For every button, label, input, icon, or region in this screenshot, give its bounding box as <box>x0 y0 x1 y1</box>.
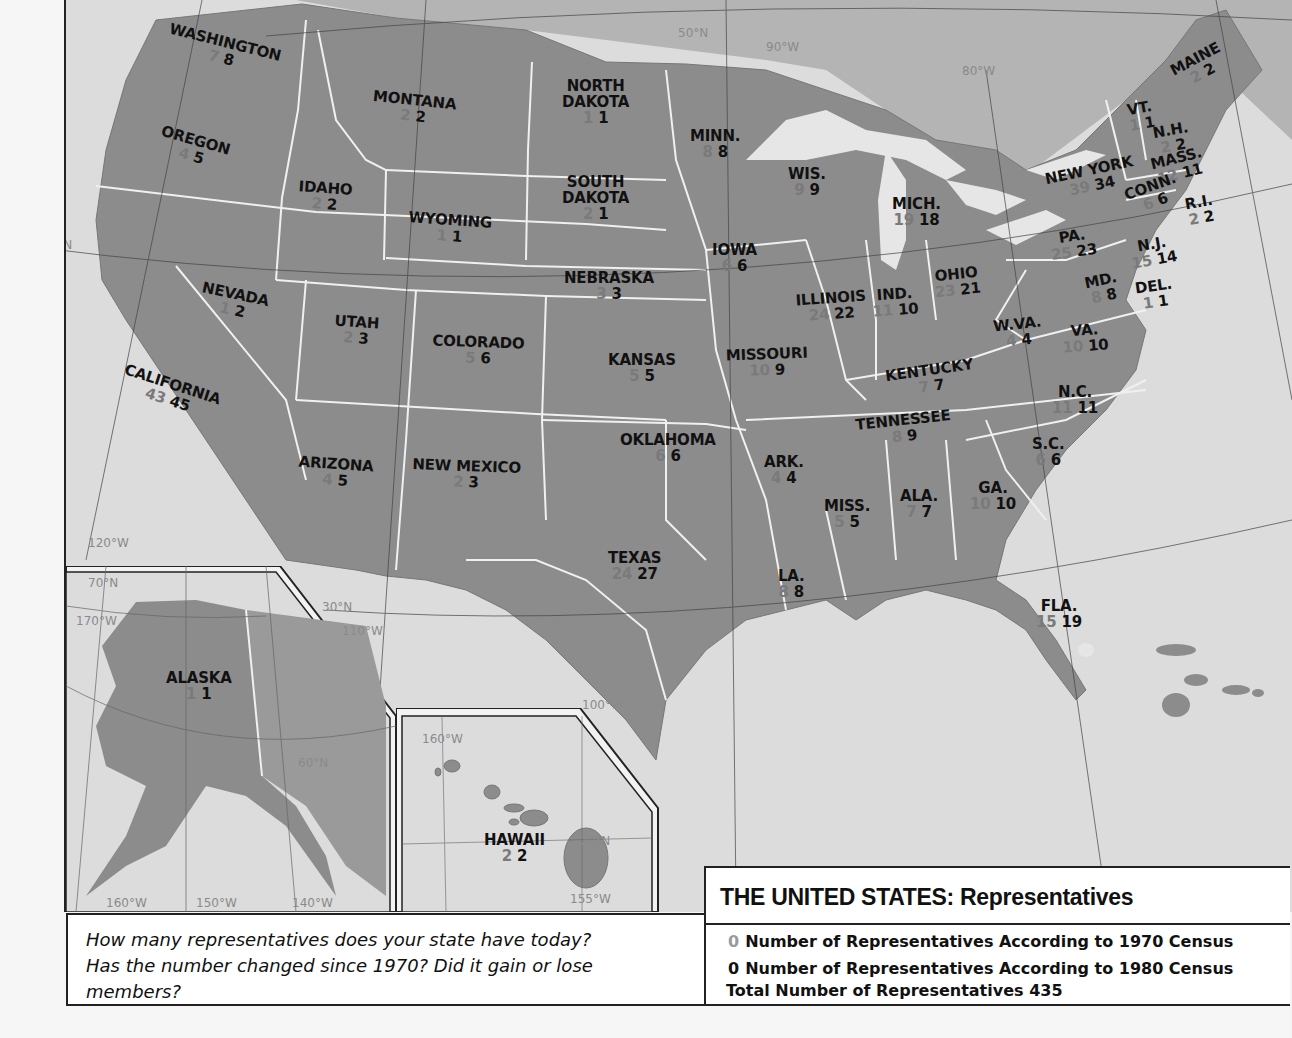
state-name: N.C. <box>1052 384 1098 400</box>
state-name: COLORADO <box>432 332 525 351</box>
state-label: MINN.88 <box>690 128 740 160</box>
state-label: MISSOURI109 <box>725 345 808 380</box>
state-representatives: 2321 <box>934 280 981 301</box>
state-label: GA.1010 <box>970 480 1016 512</box>
state-label: IDAHO22 <box>297 178 353 214</box>
state-label: MD.88 <box>1083 269 1121 307</box>
state-name: TEXAS <box>608 550 661 566</box>
representatives-1970: 10 <box>1062 337 1084 356</box>
state-label: ARIZONA45 <box>297 453 374 490</box>
state-label: OHIO2321 <box>932 264 981 301</box>
legend-swatch-1970: 0 <box>728 932 739 951</box>
state-representatives: 11 <box>562 110 629 126</box>
state-label: MICH.1918 <box>892 196 941 228</box>
graticule-label: 70°N <box>88 576 118 590</box>
graticule-label: 30°N <box>322 600 352 614</box>
state-label: FLA.1519 <box>1036 598 1082 630</box>
state-label: WYOMING11 <box>407 209 493 247</box>
representatives-1980: 3 <box>611 285 621 303</box>
representatives-1970: 7 <box>918 377 931 396</box>
representatives-1980: 4 <box>1020 330 1032 349</box>
state-label: WIS.99 <box>788 166 826 198</box>
graticule-label: 50°N <box>678 26 708 40</box>
representatives-1970: 1 <box>436 226 447 245</box>
state-name: WIS. <box>788 166 826 182</box>
representatives-1980: 7 <box>933 375 946 394</box>
state-label: DEL.11 <box>1134 276 1175 313</box>
representatives-1970: 23 <box>934 281 956 301</box>
representatives-1970: 1 <box>1142 293 1155 312</box>
representatives-1980: 9 <box>775 360 786 378</box>
state-label: LA.88 <box>778 568 805 600</box>
representatives-1980: 8 <box>1104 284 1118 304</box>
state-label: W.VA.44 <box>992 314 1043 351</box>
representatives-1980: 2 <box>415 107 427 126</box>
map-legend: THE UNITED STATES: Representatives 0Numb… <box>704 866 1290 1006</box>
state-representatives: 88 <box>690 144 740 160</box>
graticule-label: 90°W <box>766 40 799 54</box>
state-representatives: 1519 <box>1036 614 1082 630</box>
state-label: UTAH23 <box>333 312 380 347</box>
state-label: S.C.66 <box>1032 436 1064 468</box>
state-name: DAKOTA <box>562 190 629 206</box>
graticule-label: 80°W <box>962 64 995 78</box>
representatives-1970: 8 <box>702 143 712 161</box>
state-name: MINN. <box>690 128 740 144</box>
representatives-1970: 5 <box>834 513 844 531</box>
state-representatives: 66 <box>620 448 716 464</box>
representatives-1980: 6 <box>480 349 491 367</box>
state-label: NEBRASKA33 <box>564 270 654 302</box>
state-label: R.I.22 <box>1183 192 1216 228</box>
representatives-1980: 5 <box>191 148 206 168</box>
legend-row-1970: 0Number of Representatives According to … <box>728 932 1233 951</box>
representatives-1970: 10 <box>970 495 990 513</box>
representatives-1970: 1 <box>1128 115 1141 135</box>
representatives-1980: 6 <box>1051 451 1061 469</box>
representatives-1980: 11 <box>1077 399 1097 417</box>
representatives-1980: 5 <box>644 367 654 385</box>
representatives-1980: 1 <box>1157 291 1170 310</box>
representatives-1980: 2 <box>326 195 337 214</box>
representatives-1980: 4 <box>786 469 796 487</box>
state-representatives: 77 <box>900 504 938 520</box>
state-label: OKLAHOMA66 <box>620 432 716 464</box>
legend-row-1980: 0Number of Representatives According to … <box>728 959 1233 978</box>
state-label: N.J.1514 <box>1128 232 1179 271</box>
representatives-1980: 2 <box>517 847 527 865</box>
state-representatives: 1010 <box>1062 336 1109 355</box>
representatives-1970: 24 <box>808 305 830 324</box>
representatives-1980: 10 <box>1087 335 1109 354</box>
graticule-label: 100°W <box>582 698 623 712</box>
graticule-label: 120°W <box>88 536 129 550</box>
state-name: NORTH <box>562 78 629 94</box>
representatives-1980: 5 <box>337 471 348 490</box>
state-representatives: 55 <box>824 514 870 530</box>
representatives-1980: 27 <box>637 565 657 583</box>
state-representatives: 33 <box>564 286 654 302</box>
representatives-1980: 1 <box>598 109 608 127</box>
us-map: 50°N90°W80°W40°N120°W70°N170°W30°N110°W1… <box>64 0 1292 912</box>
state-representatives: 44 <box>764 470 804 486</box>
state-label: IND.1110 <box>871 284 919 319</box>
representatives-1970: 4 <box>771 469 781 487</box>
representatives-1970: 2 <box>502 847 512 865</box>
representatives-1980: 1 <box>598 205 608 223</box>
representatives-1980: 18 <box>919 211 939 229</box>
representatives-1980: 8 <box>222 50 236 70</box>
representatives-1970: 6 <box>1035 451 1045 469</box>
state-representatives: 11 <box>166 686 232 702</box>
state-representatives: 22 <box>484 848 545 864</box>
graticule-label: 160°W <box>106 896 147 910</box>
representatives-1980: 10 <box>897 299 919 318</box>
state-representatives: 99 <box>788 182 826 198</box>
state-representatives: 21 <box>562 206 629 222</box>
representatives-1980: 21 <box>959 279 981 299</box>
state-name: SOUTH <box>562 174 629 190</box>
question-line-2: Has the number changed since 1970? Did i… <box>86 953 686 979</box>
representatives-1970: 4 <box>322 470 333 489</box>
state-representatives: 1111 <box>1052 400 1098 416</box>
representatives-1970: 2 <box>342 328 353 347</box>
state-label: N.C.1111 <box>1052 384 1098 416</box>
state-representatives: 66 <box>1032 452 1064 468</box>
